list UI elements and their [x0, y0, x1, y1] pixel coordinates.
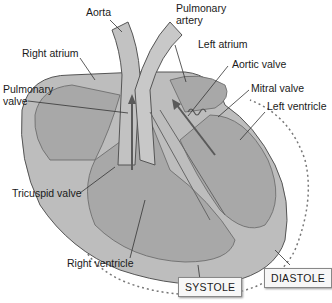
label-right-atrium: Right atrium: [22, 48, 79, 59]
label-left-atrium: Left atrium: [198, 39, 248, 50]
label-aorta: Aorta: [86, 7, 111, 18]
callout-diastole: DIASTOLE: [264, 268, 332, 288]
label-tricuspid-valve: Tricuspid valve: [12, 188, 82, 199]
callout-systole: SYSTOLE: [178, 277, 242, 297]
label-right-ventricle: Right ventricle: [67, 258, 134, 269]
label-aortic-valve: Aortic valve: [232, 59, 286, 70]
label-pulmonary-valve-line2: valve: [3, 96, 28, 107]
label-pulmonary-artery-line1: Pulmonary: [176, 3, 226, 14]
label-left-ventricle: Left ventricle: [267, 101, 327, 112]
label-pulmonary-valve-line1: Pulmonary: [3, 84, 53, 95]
label-mitral-valve: Mitral valve: [251, 83, 304, 94]
label-pulmonary-artery-line2: artery: [176, 15, 203, 26]
